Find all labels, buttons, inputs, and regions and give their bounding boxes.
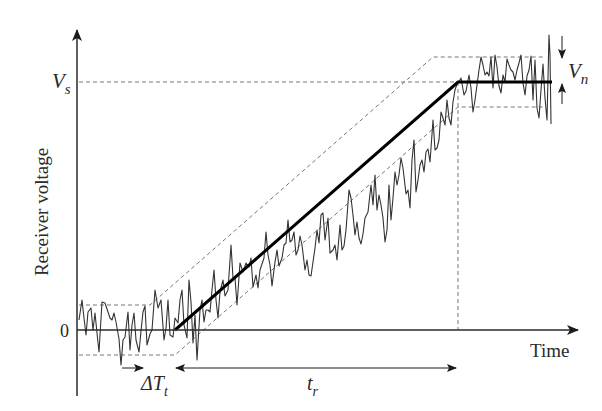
vs-label: Vs xyxy=(52,69,71,97)
delta-t-label: ΔTt xyxy=(140,372,169,399)
rise-time-diagram: Receiver voltage Time 0 Vs Vn ΔTt tr xyxy=(0,0,602,411)
x-axis-label: Time xyxy=(530,340,569,361)
noisy-signal-trace xyxy=(79,35,551,365)
y-axis-label: Receiver voltage xyxy=(31,148,52,276)
tr-label: tr xyxy=(307,372,319,399)
vn-label: Vn xyxy=(568,59,588,87)
zero-tick-label: 0 xyxy=(60,321,69,341)
ideal-ramp-signal xyxy=(175,82,552,330)
noise-band-lower xyxy=(79,107,545,355)
